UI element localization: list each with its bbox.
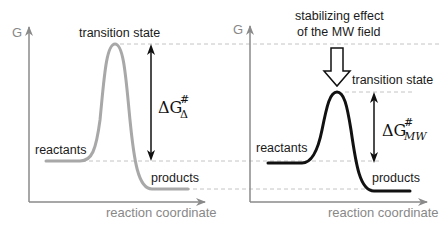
x-axis-label: reaction coordinate <box>328 205 439 220</box>
delta-g-mw-label: ΔG # MW <box>382 116 428 143</box>
svg-text:#: # <box>180 93 189 106</box>
annotation-line-2: of the MW field <box>297 25 380 39</box>
svg-text:ΔG: ΔG <box>158 98 182 117</box>
y-axis-label: G <box>12 25 22 40</box>
svg-text:Δ: Δ <box>180 108 188 121</box>
products-label: products <box>372 171 420 185</box>
y-axis-label: G <box>233 22 243 37</box>
right-panel: G stabilizing effect of the MW field tra… <box>221 9 439 220</box>
stabilizing-effect-arrow-icon <box>324 48 350 86</box>
transition-state-label: transition state <box>352 73 433 87</box>
delta-g-label: ΔG # Δ <box>158 93 189 121</box>
reactants-label: reactants <box>35 143 86 157</box>
svg-text:ΔG: ΔG <box>382 121 406 140</box>
x-axis-label: reaction coordinate <box>106 205 217 220</box>
transition-state-label: transition state <box>79 26 160 40</box>
energy-diagram: G transition state reactants products re… <box>0 0 442 231</box>
svg-text:#: # <box>404 116 413 129</box>
reactants-label: reactants <box>256 141 307 155</box>
annotation-line-1: stabilizing effect <box>295 9 384 23</box>
svg-text:MW: MW <box>403 130 428 143</box>
products-label: products <box>151 171 199 185</box>
